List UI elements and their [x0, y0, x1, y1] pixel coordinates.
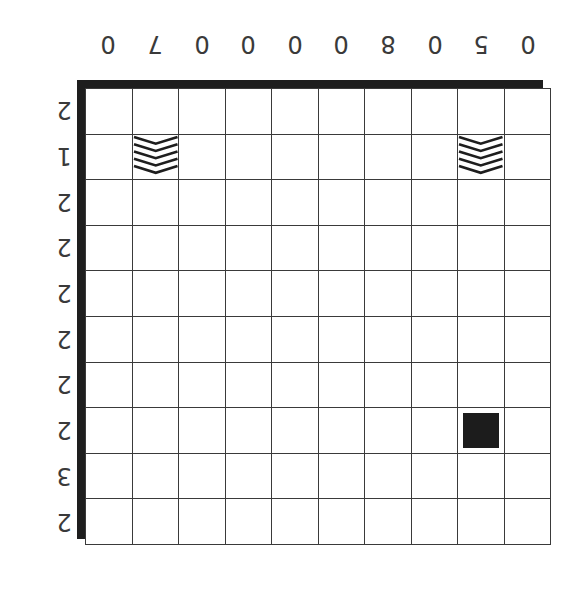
grid-cell[interactable]	[178, 270, 225, 316]
grid-cell[interactable]	[411, 225, 458, 271]
grid-cell[interactable]	[85, 88, 132, 134]
grid-cell[interactable]	[225, 316, 272, 362]
grid-cell[interactable]	[271, 407, 318, 453]
grid-cell[interactable]	[225, 134, 272, 180]
grid-cell[interactable]	[411, 407, 458, 453]
grid-cell[interactable]	[504, 88, 551, 134]
grid-cell[interactable]	[225, 225, 272, 271]
grid-cell[interactable]	[318, 453, 365, 499]
grid-cell[interactable]	[271, 225, 318, 271]
grid-cell[interactable]	[132, 179, 179, 225]
grid-cell[interactable]	[318, 270, 365, 316]
grid-cell[interactable]	[225, 362, 272, 408]
grid-cell[interactable]	[225, 407, 272, 453]
grid-cell[interactable]	[457, 270, 504, 316]
grid-cell[interactable]	[85, 498, 132, 544]
grid-cell[interactable]	[178, 316, 225, 362]
grid-cell[interactable]	[85, 179, 132, 225]
grid-cell[interactable]	[364, 179, 411, 225]
grid-cell[interactable]	[411, 362, 458, 408]
grid-cell[interactable]	[318, 225, 365, 271]
grid-cell[interactable]	[457, 407, 504, 453]
grid-cell[interactable]	[85, 453, 132, 499]
grid-cell[interactable]	[85, 407, 132, 453]
grid-cell[interactable]	[411, 498, 458, 544]
grid-cell[interactable]	[364, 225, 411, 271]
grid-cell[interactable]	[178, 225, 225, 271]
grid-cell[interactable]	[132, 134, 179, 180]
grid-cell[interactable]	[225, 270, 272, 316]
grid-cell[interactable]	[271, 134, 318, 180]
grid-cell[interactable]	[132, 316, 179, 362]
grid-cell[interactable]	[85, 134, 132, 180]
grid-cell[interactable]	[271, 498, 318, 544]
grid-cell[interactable]	[457, 453, 504, 499]
grid-cell[interactable]	[132, 225, 179, 271]
grid-cell[interactable]	[364, 270, 411, 316]
grid-cell[interactable]	[85, 362, 132, 408]
grid-cell[interactable]	[318, 498, 365, 544]
grid-cell[interactable]	[318, 362, 365, 408]
grid-cell[interactable]	[364, 134, 411, 180]
grid-cell[interactable]	[504, 453, 551, 499]
grid-cell[interactable]	[504, 316, 551, 362]
grid-cell[interactable]	[504, 362, 551, 408]
grid-cell[interactable]	[178, 362, 225, 408]
grid-cell[interactable]	[364, 362, 411, 408]
grid-cell[interactable]	[178, 179, 225, 225]
grid-cell[interactable]	[504, 270, 551, 316]
grid-cell[interactable]	[504, 179, 551, 225]
grid-cell[interactable]	[411, 316, 458, 362]
grid-cell[interactable]	[457, 316, 504, 362]
grid-cell[interactable]	[457, 88, 504, 134]
grid-cell[interactable]	[364, 453, 411, 499]
grid-cell[interactable]	[318, 88, 365, 134]
grid-cell[interactable]	[178, 134, 225, 180]
grid-cell[interactable]	[132, 498, 179, 544]
grid-cell[interactable]	[457, 134, 504, 180]
grid-cell[interactable]	[85, 225, 132, 271]
grid-cell[interactable]	[411, 270, 458, 316]
grid-cell[interactable]	[132, 88, 179, 134]
grid-cell[interactable]	[225, 498, 272, 544]
grid-cell[interactable]	[411, 88, 458, 134]
grid-cell[interactable]	[271, 453, 318, 499]
grid-cell[interactable]	[132, 270, 179, 316]
grid-cell[interactable]	[318, 179, 365, 225]
grid-cell[interactable]	[225, 453, 272, 499]
grid-cell[interactable]	[132, 407, 179, 453]
grid-cell[interactable]	[178, 453, 225, 499]
grid-cell[interactable]	[364, 407, 411, 453]
grid-cell[interactable]	[178, 498, 225, 544]
grid-cell[interactable]	[178, 88, 225, 134]
grid-cell[interactable]	[504, 225, 551, 271]
grid-cell[interactable]	[132, 453, 179, 499]
grid-cell[interactable]	[271, 270, 318, 316]
grid-cell[interactable]	[504, 498, 551, 544]
grid-cell[interactable]	[411, 453, 458, 499]
grid-cell[interactable]	[271, 362, 318, 408]
grid-cell[interactable]	[411, 179, 458, 225]
grid-cell[interactable]	[457, 225, 504, 271]
grid-cell[interactable]	[271, 179, 318, 225]
grid-cell[interactable]	[504, 134, 551, 180]
grid-cell[interactable]	[225, 88, 272, 134]
grid-cell[interactable]	[364, 316, 411, 362]
grid-cell[interactable]	[457, 179, 504, 225]
grid-cell[interactable]	[318, 134, 365, 180]
grid-cell[interactable]	[318, 407, 365, 453]
grid-cell[interactable]	[457, 498, 504, 544]
grid-cell[interactable]	[85, 316, 132, 362]
grid-cell[interactable]	[178, 407, 225, 453]
grid-cell[interactable]	[271, 88, 318, 134]
grid-cell[interactable]	[271, 316, 318, 362]
grid-cell[interactable]	[132, 362, 179, 408]
grid-cell[interactable]	[85, 270, 132, 316]
grid-cell[interactable]	[411, 134, 458, 180]
grid-cell[interactable]	[504, 407, 551, 453]
grid-cell[interactable]	[364, 88, 411, 134]
grid-cell[interactable]	[457, 362, 504, 408]
grid-cell[interactable]	[225, 179, 272, 225]
grid-cell[interactable]	[318, 316, 365, 362]
grid-cell[interactable]	[364, 498, 411, 544]
